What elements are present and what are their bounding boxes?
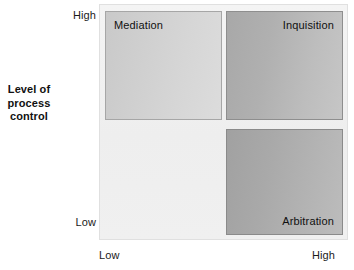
- quadrant-mediation-label: Mediation: [114, 19, 163, 31]
- matrix-plot-area: Mediation Inquisition Arbitration: [99, 4, 348, 240]
- x-axis-tick-low: Low: [99, 249, 119, 261]
- quadrant-inquisition: Inquisition: [226, 11, 343, 120]
- x-axis-tick-high: High: [312, 249, 335, 261]
- y-axis-tick-high: High: [62, 9, 96, 21]
- quadrant-mediation: Mediation: [105, 11, 222, 120]
- y-axis-title-line-2: process: [0, 97, 58, 111]
- y-axis-tick-low: Low: [62, 216, 96, 228]
- y-axis-title-line-1: Level of: [0, 83, 58, 97]
- quadrant-arbitration-label: Arbitration: [282, 215, 334, 227]
- y-axis-title: Level of process control: [0, 83, 58, 124]
- y-axis-title-line-3: control: [0, 110, 58, 124]
- quadrant-arbitration: Arbitration: [226, 129, 343, 235]
- quadrant-inquisition-label: Inquisition: [283, 19, 334, 31]
